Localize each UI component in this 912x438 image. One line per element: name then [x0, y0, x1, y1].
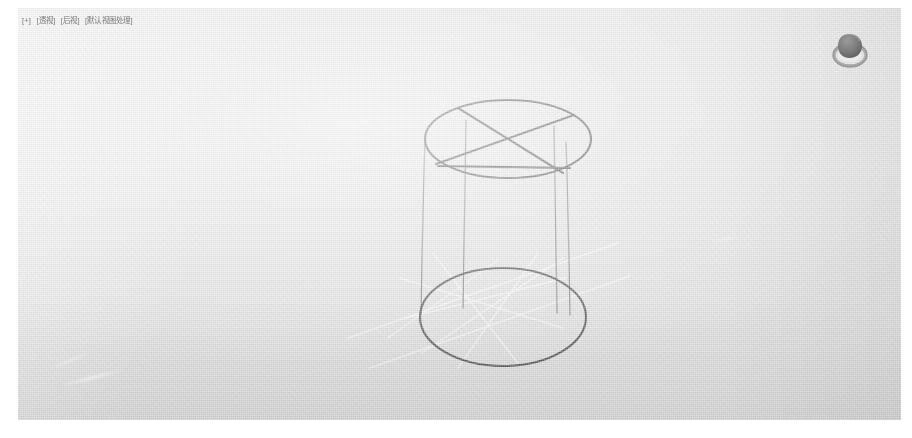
cylinder-wireframe [18, 8, 901, 420]
view-navigation-gizmo[interactable] [827, 26, 875, 72]
viewport-overlay-text: [+] [透视] [后视] [默认视图处理] [22, 16, 136, 26]
overlay-segment-view: [后视] [61, 16, 80, 25]
top-cap-chords [436, 108, 574, 173]
overlay-segment-projection: [透视] [36, 16, 55, 25]
3d-viewport[interactable]: [+] [透视] [后视] [默认视图处理] [18, 8, 901, 420]
overlay-segment-render: [默认视图处理] [85, 16, 133, 25]
scanned-page: [+] [透视] [后视] [默认视图处理] [0, 0, 912, 438]
gizmo-body [838, 34, 862, 58]
overlay-segment-plus: [+] [22, 16, 31, 25]
